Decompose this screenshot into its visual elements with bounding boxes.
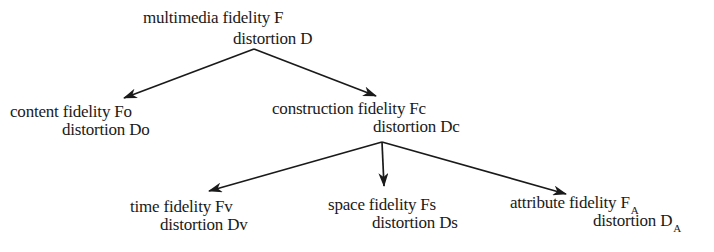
edge-construction-to-space bbox=[382, 142, 384, 186]
content-fidelity-label: content fidelity Fo bbox=[10, 103, 132, 121]
attribute-distortion-subscript: A bbox=[673, 222, 681, 234]
attribute-fidelity-label: attribute fidelity F bbox=[510, 193, 630, 212]
time-fidelity-label: time fidelity Fv bbox=[130, 198, 233, 216]
space-distortion-label: distortion Ds bbox=[372, 214, 458, 232]
root-fidelity-label: multimedia fidelity F bbox=[143, 9, 283, 27]
attribute-distortion-label: distortion D bbox=[593, 211, 672, 230]
edge-construction-to-attribute bbox=[382, 142, 566, 194]
fidelity-tree-diagram: multimedia fidelity F distortion D conte… bbox=[0, 0, 714, 252]
root-distortion-label: distortion D bbox=[233, 30, 312, 48]
attribute-distortion-line: distortion DA bbox=[593, 212, 681, 231]
construction-fidelity-label: construction fidelity Fc bbox=[272, 100, 426, 118]
construction-distortion-label: distortion Dc bbox=[373, 118, 460, 136]
edge-root-to-content bbox=[124, 49, 254, 98]
edge-construction-to-time bbox=[209, 142, 382, 191]
content-distortion-label: distortion Do bbox=[62, 121, 150, 139]
space-fidelity-label: space fidelity Fs bbox=[328, 196, 436, 214]
time-distortion-label: distortion Dv bbox=[160, 216, 248, 234]
edge-root-to-construction bbox=[254, 49, 376, 96]
